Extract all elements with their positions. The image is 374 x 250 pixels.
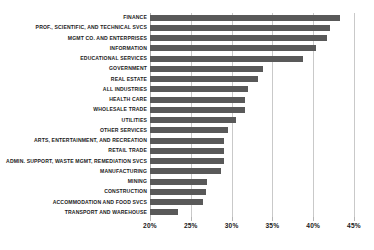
x-tick <box>313 217 314 221</box>
category-label: PROF., SCIENTIFIC, AND TECHNICAL SVCS <box>0 24 147 31</box>
bar-row <box>150 117 354 124</box>
bar-row <box>150 76 354 83</box>
category-label: WHOLESALE TRADE <box>0 106 147 113</box>
bar-row <box>150 137 354 144</box>
bar-row <box>150 147 354 154</box>
bar <box>150 56 303 62</box>
bar <box>150 117 236 123</box>
bar-row <box>150 188 354 195</box>
plot-area <box>150 13 354 217</box>
bar <box>150 107 245 113</box>
category-label: MANUFACTURING <box>0 168 147 175</box>
category-axis-labels: FINANCE PROF., SCIENTIFIC, AND TECHNICAL… <box>0 13 147 217</box>
x-tick <box>272 217 273 221</box>
bar <box>150 25 330 31</box>
bar <box>150 148 224 154</box>
x-tick <box>150 217 151 221</box>
bar-row <box>150 65 354 72</box>
bar-row <box>150 178 354 185</box>
bar <box>150 15 340 21</box>
bar-row <box>150 127 354 134</box>
gridline <box>354 13 355 217</box>
x-axis-ticks <box>150 217 354 221</box>
category-label: TRANSPORT AND WAREHOUSE <box>0 209 147 216</box>
category-label: EDUCATIONAL SERVICES <box>0 55 147 62</box>
category-label: ADMIN. SUPPORT, WASTE MGMT, REMEDIATION … <box>0 158 147 165</box>
bar-row <box>150 96 354 103</box>
x-tick-label: 40% <box>306 222 320 229</box>
x-tick-label: 20% <box>143 222 157 229</box>
bar <box>150 45 316 51</box>
bar-row <box>150 55 354 62</box>
x-tick-label: 35% <box>265 222 279 229</box>
x-tick <box>232 217 233 221</box>
bar-row <box>150 106 354 113</box>
bar <box>150 127 228 133</box>
bar-chart: FINANCE PROF., SCIENTIFIC, AND TECHNICAL… <box>0 0 374 250</box>
bar <box>150 168 221 174</box>
x-tick <box>354 217 355 221</box>
x-tick <box>191 217 192 221</box>
bar-row <box>150 14 354 21</box>
x-axis-tick-labels: 20%25%30%35%40%45% <box>150 222 354 234</box>
bar <box>150 209 178 215</box>
bar <box>150 189 206 195</box>
category-label: REAL ESTATE <box>0 76 147 83</box>
bar <box>150 97 245 103</box>
category-label: ARTS, ENTERTAINMENT, AND RECREATION <box>0 137 147 144</box>
category-label: RETAIL TRADE <box>0 147 147 154</box>
bar-row <box>150 209 354 216</box>
bar <box>150 158 224 164</box>
category-label: ALL INDUSTRIES <box>0 86 147 93</box>
bar-row <box>150 35 354 42</box>
bar <box>150 66 263 72</box>
bar-row <box>150 86 354 93</box>
bar <box>150 179 207 185</box>
category-label: UTILITIES <box>0 117 147 124</box>
category-label: INFORMATION <box>0 45 147 52</box>
bar-row <box>150 158 354 165</box>
x-tick-label: 45% <box>347 222 361 229</box>
bar <box>150 76 258 82</box>
x-tick-label: 25% <box>184 222 198 229</box>
bar-series <box>150 13 354 217</box>
bar <box>150 35 327 41</box>
category-label: MGMT CO. AND ENTERPRISES <box>0 35 147 42</box>
bar <box>150 199 203 205</box>
x-tick-label: 30% <box>225 222 239 229</box>
category-label: CONSTRUCTION <box>0 188 147 195</box>
bar-row <box>150 168 354 175</box>
category-label: GOVERNMENT <box>0 65 147 72</box>
category-label: ACCOMMODATION AND FOOD SVCS <box>0 199 147 206</box>
category-label: OTHER SERVICES <box>0 127 147 134</box>
category-label: FINANCE <box>0 14 147 21</box>
bar-row <box>150 24 354 31</box>
category-label: HEALTH CARE <box>0 96 147 103</box>
category-label: MINING <box>0 178 147 185</box>
bar-row <box>150 45 354 52</box>
bar <box>150 138 224 144</box>
bar-row <box>150 199 354 206</box>
bar <box>150 86 248 92</box>
